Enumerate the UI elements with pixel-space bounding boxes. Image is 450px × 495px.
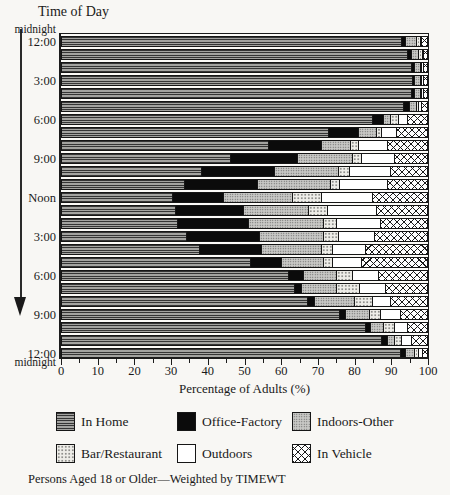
legend-swatch-in-vehicle xyxy=(292,444,311,463)
x-minor-tick xyxy=(226,359,227,363)
y-tick-label: 9:00 xyxy=(0,152,56,166)
legend-item-in-home: In Home xyxy=(56,412,177,431)
legend-item-bar-restaurant: Bar/Restaurant xyxy=(56,444,177,463)
bar-row-hour-17 xyxy=(61,257,428,268)
plot-area xyxy=(59,33,429,359)
bar-segment-in-home xyxy=(62,128,328,137)
bar-segment-in-vehicle xyxy=(380,219,427,228)
bar-row-hour-21 xyxy=(61,309,428,320)
bar-segment-in-vehicle xyxy=(407,323,427,332)
bar-segment-indoors-other xyxy=(358,128,376,137)
legend-swatch-office-factory xyxy=(177,412,196,431)
legend-label: Bar/Restaurant xyxy=(81,446,162,462)
bar-segment-in-home xyxy=(62,76,412,85)
bar-segment-in-home xyxy=(62,180,184,189)
bar-segment-indoors-other xyxy=(411,50,418,59)
bar-segment-bar-restaurant xyxy=(369,310,380,319)
bar-segment-bar-restaurant xyxy=(323,219,336,228)
bar-row-hour-18 xyxy=(61,270,428,281)
x-tick-label: 90 xyxy=(374,364,408,379)
legend-label: Office-Factory xyxy=(202,414,282,430)
bar-segment-bar-restaurant xyxy=(383,323,394,332)
bar-row-hour-6 xyxy=(61,114,428,125)
bar-segment-in-home xyxy=(62,310,339,319)
legend: In HomeOffice-FactoryIndoors-OtherBar/Re… xyxy=(56,412,442,463)
bar-row-hour-19 xyxy=(61,283,428,294)
bar-segment-bar-restaurant xyxy=(338,167,349,176)
bar-segment-office-factory xyxy=(294,284,301,293)
bar-segment-indoors-other xyxy=(409,102,416,111)
bar-row-hour-0 xyxy=(61,36,428,47)
legend-label: Outdoors xyxy=(202,446,252,462)
bar-segment-bar-restaurant xyxy=(350,141,357,150)
bar-segment-in-home xyxy=(62,206,175,215)
bar-segment-in-home xyxy=(62,167,201,176)
y-tick-label: Noon xyxy=(0,191,56,205)
bar-segment-outdoors xyxy=(327,206,376,215)
bar-segment-indoors-other xyxy=(321,141,350,150)
bar-segment-in-vehicle xyxy=(361,258,427,267)
bar-segment-office-factory xyxy=(184,180,257,189)
stacked-bar-chart-figure: Time of Day midnight midnight 12:003:006… xyxy=(0,0,450,495)
bar-segment-bar-restaurant xyxy=(354,297,372,306)
x-minor-tick xyxy=(79,359,80,363)
bar-row-hour-9 xyxy=(61,153,428,164)
bar-segment-outdoors xyxy=(358,141,387,150)
bar-segment-indoors-other xyxy=(301,284,336,293)
bar-segment-office-factory xyxy=(307,297,314,306)
bar-segment-indoors-other xyxy=(345,310,369,319)
bar-segment-in-home xyxy=(62,323,365,332)
y-tick-label: 12:00 xyxy=(0,347,56,361)
bar-row-hour-16 xyxy=(61,244,428,255)
bar-segment-indoors-other xyxy=(248,219,323,228)
bar-segment-in-home xyxy=(62,284,294,293)
bar-segment-bar-restaurant xyxy=(336,284,360,293)
y-tick-label: 3:00 xyxy=(0,230,56,244)
legend-item-office-factory: Office-Factory xyxy=(177,412,292,431)
bar-segment-indoors-other xyxy=(223,193,292,202)
bar-segment-in-vehicle xyxy=(378,271,427,280)
bar-row-hour-2 xyxy=(61,62,428,73)
bar-segment-in-vehicle xyxy=(411,336,427,345)
bar-segment-outdoors xyxy=(401,336,410,345)
x-minor-tick xyxy=(373,359,374,363)
bar-segment-office-factory xyxy=(172,193,223,202)
bar-segment-in-vehicle xyxy=(421,102,426,111)
bar-segment-bar-restaurant xyxy=(390,115,397,124)
x-minor-tick xyxy=(263,359,264,363)
bar-segment-bar-restaurant xyxy=(330,180,339,189)
bar-segment-in-vehicle xyxy=(385,284,427,293)
bar-segment-in-vehicle xyxy=(387,141,427,150)
bar-segment-indoors-other xyxy=(297,154,352,163)
bar-segment-indoors-other xyxy=(314,297,354,306)
bar-segment-outdoors xyxy=(394,323,407,332)
x-tick-label: 50 xyxy=(228,364,262,379)
bar-segment-in-home xyxy=(62,193,172,202)
bar-segment-in-home xyxy=(62,232,186,241)
bar-segment-office-factory xyxy=(201,167,274,176)
x-tick-label: 60 xyxy=(264,364,298,379)
bar-segment-in-home xyxy=(62,154,230,163)
bar-segment-in-home xyxy=(62,141,268,150)
bar-row-hour-11 xyxy=(61,179,428,190)
bar-row-hour-3 xyxy=(61,75,428,86)
bar-row-hour-1 xyxy=(61,49,428,60)
x-tick-label: 100 xyxy=(411,364,445,379)
y-tick-label: 12:00 xyxy=(0,35,56,49)
bar-segment-outdoors xyxy=(338,232,375,241)
x-tick-label: 20 xyxy=(117,364,151,379)
legend-swatch-indoors-other xyxy=(292,412,311,431)
bar-segment-in-vehicle xyxy=(387,180,427,189)
bar-segment-bar-restaurant xyxy=(308,206,326,215)
bar-segment-in-vehicle xyxy=(390,297,427,306)
bar-segment-bar-restaurant xyxy=(336,271,352,280)
legend-label: Indoors-Other xyxy=(317,414,393,430)
bar-segment-outdoors xyxy=(359,284,385,293)
bar-segment-in-home xyxy=(62,63,411,72)
bar-segment-indoors-other xyxy=(405,349,414,358)
x-tick-label: 40 xyxy=(191,364,225,379)
bar-segment-outdoors xyxy=(372,297,390,306)
bar-segment-in-home xyxy=(62,37,401,46)
bar-row-hour-15 xyxy=(61,231,428,242)
bar-segment-office-factory xyxy=(328,128,357,137)
